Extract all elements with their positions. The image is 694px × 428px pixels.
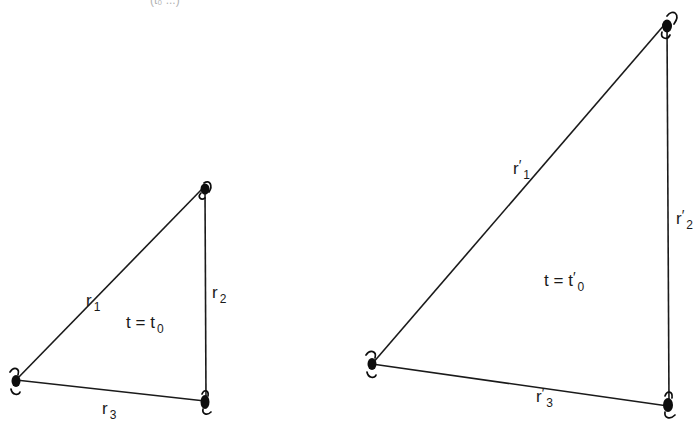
label-r3: r3 — [102, 398, 116, 421]
label-r3-prime: r′3 — [536, 386, 553, 409]
spin-arrow-icon — [366, 351, 375, 358]
time-label-t0-prime: t = t′0 — [544, 270, 584, 293]
mass-bottom-left-right-triangle — [366, 351, 377, 377]
three-body-diagram — [0, 0, 694, 428]
label-r1: r1 — [86, 290, 100, 313]
time-label-t0: t = t0 — [126, 312, 164, 335]
spin-arrow-icon — [10, 368, 18, 375]
label-r1-prime: r′1 — [513, 158, 530, 181]
mass-top-right-triangle — [662, 12, 677, 38]
triangle-t0-prime — [366, 12, 677, 418]
edge-r2-prime — [667, 24, 669, 403]
edge-r1 — [16, 188, 203, 380]
edge-r1-prime — [372, 24, 665, 364]
edge-r2 — [205, 190, 206, 399]
edge-r3-prime — [372, 364, 668, 406]
mass-bottom-left-left-triangle — [10, 368, 21, 394]
triangle-t0 — [10, 182, 211, 414]
label-r2-prime: r′2 — [676, 208, 693, 231]
label-r2: r2 — [212, 282, 226, 305]
